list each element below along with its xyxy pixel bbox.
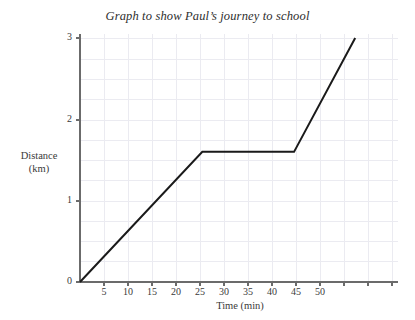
xtick-label-40: 40 bbox=[260, 286, 284, 297]
xtick-label-50: 50 bbox=[308, 286, 332, 297]
ytick-label-3: 3 bbox=[54, 31, 72, 42]
xtick-label-5: 5 bbox=[92, 286, 116, 297]
ytick-label-1: 1 bbox=[54, 194, 72, 205]
y-tick-marks bbox=[76, 38, 80, 282]
xtick-label-25: 25 bbox=[188, 286, 212, 297]
xtick-label-45: 45 bbox=[284, 286, 308, 297]
ytick-label-2: 2 bbox=[54, 113, 72, 124]
xtick-label-20: 20 bbox=[164, 286, 188, 297]
y-axis-title-line2: (km) bbox=[6, 162, 72, 175]
grid-lines bbox=[80, 34, 398, 282]
y-axis-title: Distance (km) bbox=[6, 149, 72, 175]
ytick-label-0: 0 bbox=[54, 275, 72, 286]
x-axis-title: Time (min) bbox=[80, 300, 400, 311]
chart-figure: Graph to show Paul’s journey to school bbox=[0, 0, 415, 320]
y-axis-title-line1: Distance bbox=[6, 149, 72, 162]
xtick-label-30: 30 bbox=[212, 286, 236, 297]
xtick-label-35: 35 bbox=[236, 286, 260, 297]
xtick-label-15: 15 bbox=[140, 286, 164, 297]
xtick-label-10: 10 bbox=[116, 286, 140, 297]
